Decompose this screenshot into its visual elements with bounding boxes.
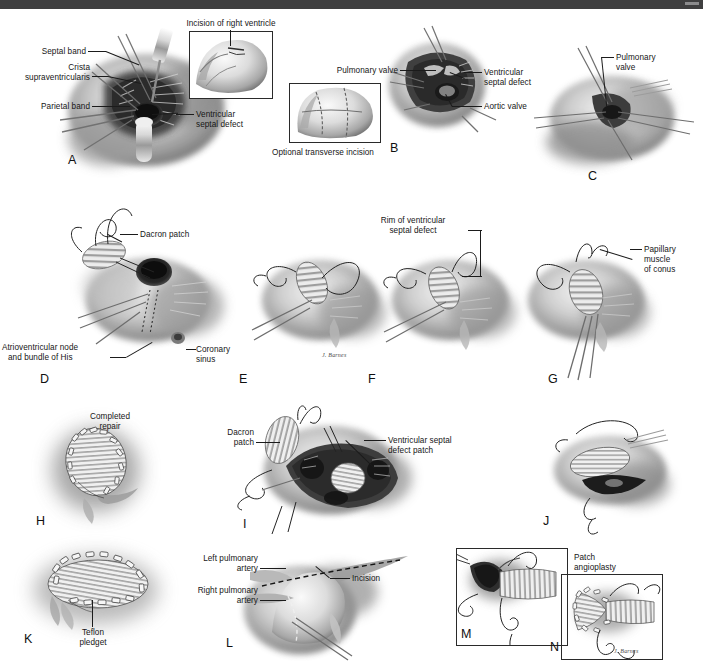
leader-a-inset	[230, 30, 231, 46]
label-h-completed-line2: repair	[66, 422, 154, 432]
leader-f-rim-3	[462, 276, 482, 277]
label-a-crista-line2: supraventricularis	[0, 73, 90, 83]
leader-l-incision-2	[315, 566, 329, 578]
panel-letter-n: N	[550, 641, 559, 654]
artist-signature-e: J. Barnes	[322, 352, 346, 358]
label-g-papillary-line2: muscle	[644, 255, 670, 265]
label-k-teflon-line2: pledget	[62, 638, 124, 648]
leader-a-crista-2	[108, 76, 141, 84]
leader-b-vsd-2	[450, 72, 465, 79]
label-a-vsd-line2: septal defect	[196, 120, 243, 130]
panel-letter-a: A	[68, 154, 76, 167]
label-l-rpa-line1: Right pulmonary	[152, 586, 258, 596]
inset-n-frame	[561, 574, 663, 660]
label-g-papillary-line1: Papillary	[644, 245, 676, 255]
leader-d-coronary	[186, 349, 196, 350]
leader-b-aortic-valve	[452, 106, 482, 107]
label-a-vsd-line1: Ventricular	[196, 110, 235, 120]
label-i-vsd-patch-line2: defect patch	[388, 446, 433, 456]
inset-b-transverse-incision	[289, 83, 381, 143]
leader-l-lpa	[260, 568, 286, 569]
leader-a-septal-band-2	[106, 51, 140, 65]
label-d-coronary-line1: Coronary	[196, 345, 230, 355]
panel-letter-b: B	[390, 142, 398, 155]
label-a-inset-caption: Incision of right ventricle	[168, 19, 294, 29]
label-g-papillary-line3: of conus	[644, 265, 675, 275]
label-l-rpa-line2: artery	[152, 596, 258, 606]
leader-i-vsd-patch-2	[345, 440, 374, 469]
artist-signature-n: J. Barnes	[614, 648, 638, 654]
label-l-incision: Incision	[352, 574, 380, 584]
label-a-septal-band: Septal band	[6, 47, 86, 57]
leader-d-av-node-2	[126, 342, 152, 358]
leader-d-dacron	[120, 234, 138, 235]
surgical-figure-plate: Septal band Crista supraventricularis Pa…	[0, 0, 703, 669]
label-b-aortic-valve: Aortic valve	[484, 102, 527, 112]
panel-letter-d: D	[40, 373, 49, 386]
panel-letter-k: K	[24, 633, 32, 646]
leader-i-dacron	[256, 442, 280, 443]
leader-f-rim-2	[480, 230, 481, 276]
leader-k-teflon	[92, 600, 93, 627]
top-bar-tick	[685, 2, 699, 5]
label-f-rim-line1: Rim of ventricular	[358, 216, 468, 226]
leader-i-vsd-patch	[364, 440, 386, 441]
label-k-teflon-line1: Teflon	[62, 628, 124, 638]
panel-letter-i: I	[243, 518, 246, 531]
panel-letter-h: H	[36, 515, 45, 528]
top-bar	[0, 0, 703, 9]
panel-letter-e: E	[239, 373, 247, 386]
leader-a-septal-band	[88, 51, 106, 52]
leader-b-vsd	[464, 72, 482, 73]
panel-letter-l: L	[226, 637, 233, 650]
leader-d-av-node	[110, 357, 126, 358]
label-d-av-node-line2: and bundle of His	[8, 353, 73, 363]
leader-a-vsd-2	[152, 113, 178, 115]
inset-m-frame	[456, 548, 568, 646]
label-h-completed-line1: Completed	[66, 412, 154, 422]
label-l-lpa-line1: Left pulmonary	[160, 554, 258, 564]
leader-c-pulmonary	[602, 57, 614, 58]
label-i-dacron-line1: Dacron	[196, 428, 254, 438]
label-f-rim-line2: septal defect	[358, 226, 468, 236]
inset-a-right-ventricle	[189, 31, 273, 99]
label-b-vsd-line1: Ventricular	[484, 68, 523, 78]
leader-b-pulmonary-valve	[400, 70, 436, 71]
label-b-inset-caption: Optional transverse incision	[272, 148, 374, 158]
label-n-patch-line1: Patch	[574, 553, 595, 563]
label-i-dacron-line2: patch	[196, 438, 254, 448]
leader-a-vsd	[176, 114, 194, 115]
label-d-av-node-line1: Atrioventricular node	[2, 343, 78, 353]
panel-letter-g: G	[548, 373, 558, 386]
panel-letter-j: J	[543, 515, 549, 528]
panel-letter-m: M	[461, 628, 471, 641]
label-l-lpa-line2: artery	[160, 564, 258, 574]
leader-c-pulmonary-2	[601, 57, 607, 107]
label-b-vsd-line2: septal defect	[484, 78, 531, 88]
leader-l-rpa	[260, 600, 286, 601]
panel-letter-f: F	[368, 373, 376, 386]
panel-letter-c: C	[588, 170, 597, 183]
leader-l-incision	[330, 578, 350, 579]
label-c-pulmonary-line1: Pulmonary	[616, 53, 656, 63]
label-a-parietal-band: Parietal band	[6, 102, 90, 112]
leader-d-dacron-2	[108, 234, 123, 242]
label-a-crista-line1: Crista	[6, 63, 90, 73]
leader-g-papillary	[630, 249, 642, 250]
leader-g-papillary-2	[600, 249, 633, 260]
leader-b-aortic-valve-2	[445, 94, 452, 107]
label-b-pulmonary-valve: Pulmonary valve	[310, 66, 398, 76]
leader-a-crista	[92, 76, 108, 77]
leader-a-parietal-band	[92, 106, 130, 107]
label-n-patch-line2: angioplasty	[574, 563, 616, 573]
label-d-dacron-patch: Dacron patch	[140, 230, 189, 240]
label-c-pulmonary-line2: valve	[616, 63, 635, 73]
label-i-vsd-patch-line1: Ventricular septal	[388, 436, 452, 446]
label-d-coronary-line2: sinus	[196, 355, 215, 365]
